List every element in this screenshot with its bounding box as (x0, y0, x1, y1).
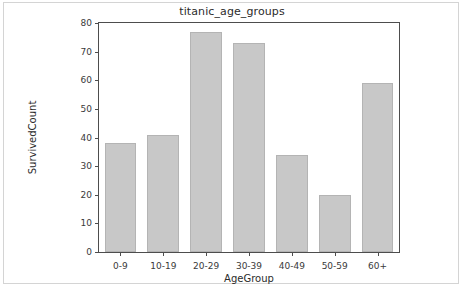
bar (362, 83, 394, 252)
figure-viewer: titanic_age_groups SurvivedCount 0102030… (0, 0, 464, 296)
y-axis-label-text: SurvivedCount (28, 101, 39, 175)
x-axis-label: AgeGroup (98, 273, 400, 284)
chart-title: titanic_age_groups (4, 5, 460, 18)
y-tick-label: 70 (55, 47, 99, 57)
y-tick-label: 0 (55, 247, 99, 257)
x-tick-label: 60+ (368, 261, 387, 271)
plot-area: 01020304050607080 0-910-1920-2930-3940-4… (98, 22, 400, 253)
x-tick-label: 50-59 (322, 261, 348, 271)
figure-card: titanic_age_groups SurvivedCount 0102030… (3, 2, 459, 284)
x-tick-mark (249, 252, 250, 256)
y-tick-label: 40 (55, 133, 99, 143)
bar (190, 32, 222, 252)
bar (276, 155, 308, 252)
x-tick-mark (292, 252, 293, 256)
y-tick-label: 20 (55, 190, 99, 200)
bar (105, 143, 137, 252)
x-tick-label: 30-39 (236, 261, 262, 271)
y-axis-label: SurvivedCount (26, 22, 40, 253)
y-tick-label: 30 (55, 161, 99, 171)
x-tick-mark (120, 252, 121, 256)
y-tick-mark (95, 252, 99, 253)
bar-series (99, 23, 399, 252)
y-tick-label: 80 (55, 18, 99, 28)
bar-chart: titanic_age_groups SurvivedCount 0102030… (4, 3, 460, 285)
x-tick-mark (163, 252, 164, 256)
x-tick-label: 40-49 (279, 261, 305, 271)
y-tick-label: 50 (55, 104, 99, 114)
x-tick-mark (335, 252, 336, 256)
bar (147, 135, 179, 252)
bar (233, 43, 265, 252)
x-tick-label: 20-29 (193, 261, 219, 271)
y-tick-label: 60 (55, 75, 99, 85)
x-tick-mark (378, 252, 379, 256)
bar (319, 195, 351, 252)
x-tick-label: 0-9 (113, 261, 128, 271)
y-tick-label: 10 (55, 218, 99, 228)
x-tick-mark (206, 252, 207, 256)
x-tick-label: 10-19 (150, 261, 176, 271)
